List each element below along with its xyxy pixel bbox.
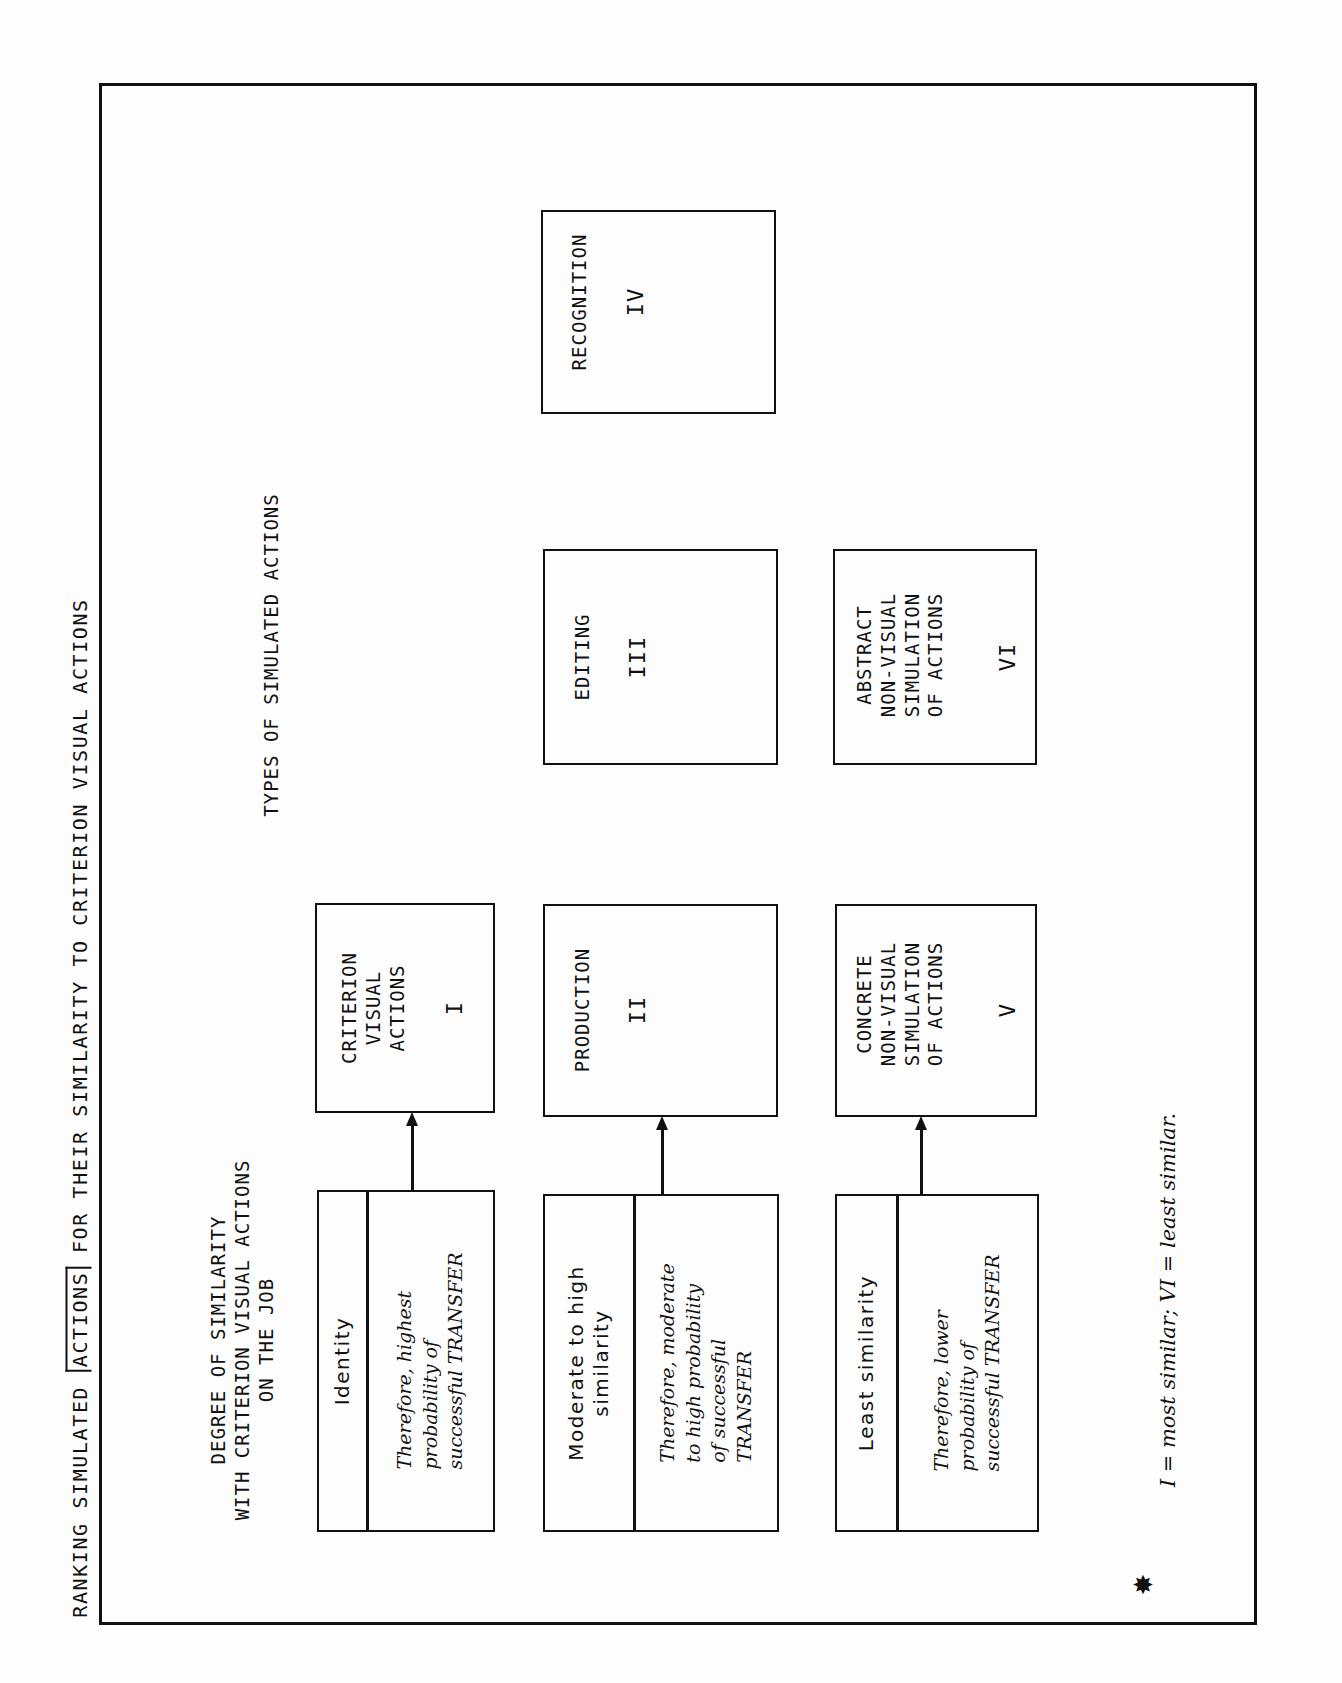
action-numeral-iii: III [624, 636, 652, 679]
arrow-head-icon [915, 1116, 927, 1130]
arrow-head-icon [656, 1116, 668, 1130]
action-name-criterion: CRITERION VISUAL ACTIONS [338, 952, 409, 1064]
degree-of-similarity-header: DEGREE OF SIMILARITY WITH CRITERION VISU… [207, 1160, 278, 1521]
action-numeral-i: I [441, 1001, 469, 1015]
arrow-head-icon [406, 1112, 418, 1126]
similarity-level-least: Least similarity [854, 1275, 879, 1451]
action-name-production: PRODUCTION [571, 948, 595, 1072]
arrow-least-to-concrete [920, 1126, 923, 1194]
action-name-recognition: RECOGNITION [568, 234, 592, 371]
title-before: RANKING SIMULATED [68, 1372, 92, 1618]
action-name-concrete: CONCRETE NON-VISUAL SIMULATION OF ACTION… [853, 942, 948, 1066]
footnote-text: I = most similar; VI = least similar. [1154, 1113, 1182, 1488]
identity-divider [366, 1190, 369, 1532]
similarity-desc-moderate: Therefore, moderate to high probability … [655, 1263, 758, 1463]
arrow-moderate-to-production [661, 1126, 664, 1194]
action-numeral-ii: II [624, 996, 652, 1025]
similarity-level-moderate: Moderate to high similarity [564, 1265, 614, 1461]
types-of-simulated-actions-header: TYPES OF SIMULATED ACTIONS [260, 493, 284, 816]
similarity-desc-least: Therefore, lower probability of successf… [929, 1254, 1006, 1471]
star-icon: ✸ [1133, 1565, 1153, 1599]
action-name-editing: EDITING [571, 613, 595, 700]
arrow-identity-to-criterion [411, 1122, 414, 1190]
least-divider [896, 1194, 899, 1532]
title-boxed-word: ACTIONS [66, 1267, 92, 1373]
similarity-level-identity: Identity [330, 1317, 355, 1406]
page-title: RANKING SIMULATED ACTIONS FOR THEIR SIMI… [68, 598, 93, 1617]
action-numeral-iv: IV [622, 288, 650, 317]
action-numeral-vi: VI [994, 643, 1022, 672]
similarity-desc-identity: Therefore, highest probability of succes… [392, 1252, 469, 1469]
moderate-divider [633, 1194, 636, 1532]
action-name-abstract: ABSTRACT NON-VISUAL SIMULATION OF ACTION… [853, 593, 948, 717]
title-after: FOR THEIR SIMILARITY TO CRITERION VISUAL… [68, 598, 92, 1266]
action-numeral-v: V [994, 1003, 1022, 1017]
